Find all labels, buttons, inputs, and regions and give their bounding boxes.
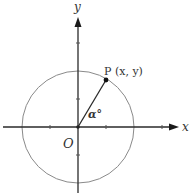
x-axis-label: x (182, 120, 189, 134)
y-axis-arrow-icon (75, 17, 82, 27)
unit-circle-diagram: y x O P (x, y) α° (0, 0, 190, 195)
origin-point (76, 125, 80, 129)
y-axis-label: y (73, 0, 81, 14)
angle-label: α° (88, 108, 102, 121)
origin-label: O (63, 136, 74, 151)
point-p-label: P (x, y) (104, 65, 143, 78)
point-p (104, 78, 109, 83)
x-axis-arrow-icon (169, 124, 179, 131)
